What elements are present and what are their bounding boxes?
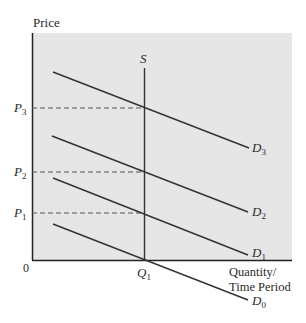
demand-label-d0: D0 xyxy=(251,293,266,310)
supply-demand-diagram: Price 0 Quantity/ Time Period S Q1 P3 P2… xyxy=(0,0,306,323)
origin-label: 0 xyxy=(23,261,29,275)
x-axis-label-line1: Quantity/ xyxy=(229,265,277,279)
price-label-p3: P3 xyxy=(13,100,27,117)
price-label-p2: P2 xyxy=(13,164,26,181)
quantity-label-q1: Q1 xyxy=(137,265,151,282)
x-axis-label-line2: Time Period xyxy=(229,280,291,294)
price-label-p1: P1 xyxy=(13,205,26,222)
y-axis-label: Price xyxy=(33,15,60,30)
supply-label: S xyxy=(140,51,147,66)
